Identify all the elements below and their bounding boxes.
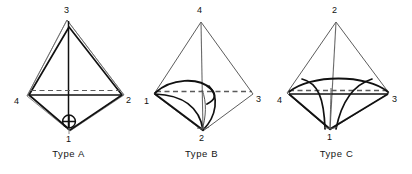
type-b-vertex-label-right: 3 <box>256 95 261 104</box>
type-b-drawing <box>133 0 270 145</box>
type-b-vertical-axis <box>201 22 203 131</box>
type-c-drawing <box>268 0 405 145</box>
type-a-vertex-label-left: 4 <box>14 97 19 106</box>
type-b-caption: Type B <box>133 148 270 159</box>
diagram-panel-type-b: 4 1 3 2 Type B <box>133 0 270 174</box>
figure-root: 3 4 2 1 Type A <box>0 0 412 174</box>
diagram-panel-type-a: 3 4 2 1 Type A <box>0 0 137 174</box>
type-c-frame-edges <box>287 22 389 130</box>
type-a-caption: Type A <box>0 148 137 159</box>
type-c-bold-lower-edges <box>289 94 388 129</box>
crossed-circle-icon <box>63 115 76 128</box>
type-b-vertex-label-left: 1 <box>144 97 149 106</box>
diagram-panel-type-c: 2 4 3 1 Type C <box>268 0 405 174</box>
type-c-caption: Type C <box>268 148 405 159</box>
type-c-outer-dome-curve <box>289 79 388 93</box>
type-a-drawing <box>0 0 137 145</box>
type-a-vertex-label-right: 2 <box>126 96 131 105</box>
type-a-vertex-label-bottom: 1 <box>66 135 71 144</box>
type-a-vertex-label-top: 3 <box>64 6 69 15</box>
type-c-vertex-label-right: 3 <box>392 95 397 104</box>
type-c-vertical-axis <box>330 22 336 130</box>
type-b-vertex-label-bottom: 2 <box>199 134 204 143</box>
type-c-vertex-label-bottom: 1 <box>327 133 332 142</box>
type-a-main-edges <box>29 27 122 130</box>
type-c-vertex-label-top: 2 <box>332 6 337 15</box>
type-c-vertex-label-left: 4 <box>277 96 282 105</box>
type-b-vertex-label-top: 4 <box>197 6 202 15</box>
type-b-frame-edges <box>154 22 253 131</box>
